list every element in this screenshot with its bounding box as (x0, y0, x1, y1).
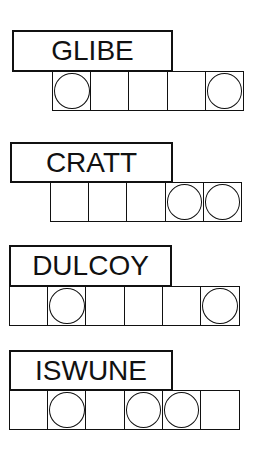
answer-cell[interactable] (126, 182, 166, 222)
scrambled-word: CRATT (46, 149, 137, 177)
answer-cells (50, 182, 242, 222)
answer-cell-circled[interactable] (47, 390, 87, 430)
answer-cell[interactable] (9, 390, 49, 430)
answer-cells (52, 71, 244, 111)
answer-cell-circled[interactable] (124, 390, 164, 430)
answer-cell[interactable] (88, 182, 128, 222)
answer-cell[interactable] (167, 71, 207, 111)
answer-cell-circled[interactable] (203, 182, 243, 222)
scrambled-word-box: CRATT (10, 142, 173, 183)
answer-cell-circled[interactable] (165, 182, 205, 222)
answer-cells (9, 390, 240, 430)
answer-cell-circled[interactable] (205, 71, 245, 111)
scrambled-word-box: GLIBE (12, 30, 173, 72)
answer-cell[interactable] (124, 286, 164, 326)
answer-cell-circled[interactable] (162, 390, 202, 430)
answer-cell-circled[interactable] (200, 286, 240, 326)
answer-cell[interactable] (128, 71, 168, 111)
scrambled-word: DULCOY (32, 252, 149, 280)
answer-cell[interactable] (90, 71, 130, 111)
scrambled-word: ISWUNE (35, 357, 147, 385)
answer-cell-circled[interactable] (52, 71, 92, 111)
answer-cells (9, 286, 240, 326)
answer-cell-circled[interactable] (47, 286, 87, 326)
answer-cell[interactable] (85, 286, 125, 326)
scrambled-word-box: ISWUNE (9, 350, 173, 391)
answer-cell[interactable] (50, 182, 90, 222)
answer-cell[interactable] (85, 390, 125, 430)
answer-cell[interactable] (162, 286, 202, 326)
answer-cell[interactable] (9, 286, 49, 326)
answer-cell[interactable] (200, 390, 240, 430)
scrambled-word: GLIBE (51, 37, 133, 65)
scrambled-word-box: DULCOY (9, 245, 172, 287)
